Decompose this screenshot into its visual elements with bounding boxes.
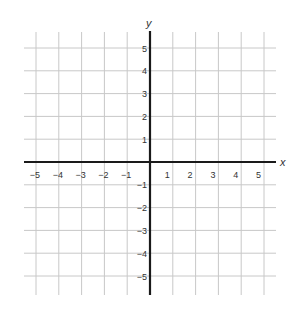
- x-tick-label: 2: [188, 170, 193, 180]
- x-tick-label: 1: [165, 170, 170, 180]
- x-tick-label: −2: [98, 170, 108, 180]
- coordinate-plane: −5−4−3−2−11234554321−1−2−3−4−5 x y: [0, 0, 297, 327]
- x-tick-label: 4: [233, 170, 238, 180]
- y-tick-label: 2: [142, 112, 147, 122]
- y-tick-label: −4: [137, 249, 147, 259]
- y-tick-label: 3: [142, 89, 147, 99]
- x-axis-label: x: [279, 156, 286, 168]
- x-tick-label: −5: [30, 170, 40, 180]
- x-tick-label: −1: [121, 170, 131, 180]
- x-tick-label: −4: [53, 170, 63, 180]
- y-tick-label: 5: [142, 44, 147, 54]
- y-tick-label: −1: [137, 180, 147, 190]
- x-tick-label: 3: [210, 170, 215, 180]
- y-tick-label: 1: [142, 135, 147, 145]
- x-tick-label: 5: [256, 170, 261, 180]
- y-tick-label: −3: [137, 226, 147, 236]
- y-tick-label: 4: [142, 66, 147, 76]
- x-tick-label: −3: [75, 170, 85, 180]
- y-tick-label: −2: [137, 203, 147, 213]
- y-axis-label: y: [145, 17, 153, 29]
- y-tick-label: −5: [137, 272, 147, 282]
